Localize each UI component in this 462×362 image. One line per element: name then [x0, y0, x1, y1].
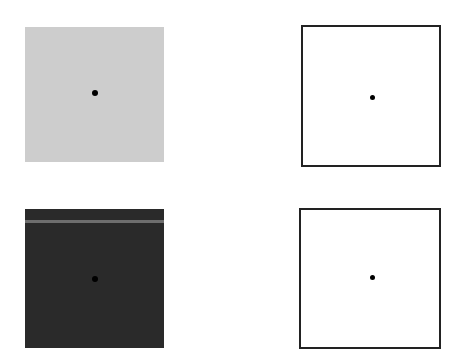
outlined-square-panel-top: [301, 25, 441, 167]
dark-square-panel: [25, 209, 164, 348]
light-stripe: [25, 220, 164, 223]
fixation-dot: [92, 90, 98, 96]
outlined-square-panel-bottom: [299, 208, 441, 349]
gray-square-panel: [25, 27, 164, 162]
fixation-dot: [370, 275, 375, 280]
fixation-dot: [92, 276, 98, 282]
fixation-dot: [370, 95, 375, 100]
